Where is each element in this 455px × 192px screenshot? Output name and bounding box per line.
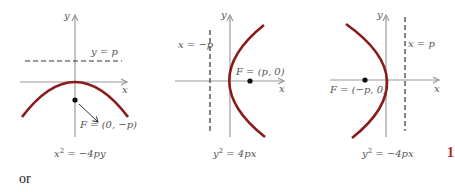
equation-label: x2 = −4py [54,147,106,159]
focus-label: F = (p, 0) [235,66,285,77]
x-axis-label: x [122,84,128,95]
page-marker: 1 [447,145,454,160]
or-text: or [19,171,31,186]
equation-label: y2 = −4px [361,147,414,159]
focus-point [362,77,367,82]
diagram-opens-left: y x x = p F = (−p, 0) y2 = −4px [329,9,440,159]
focus-point [72,97,77,102]
y-axis-label: y [220,9,227,20]
x-axis-label: x [279,83,285,94]
diagram-opens-right: y x x = −p F = (p, 0) y2 = 4px [175,9,285,159]
y-axis-label: y [63,10,70,21]
parabola-figures: y x y = p F = (0, −p) x2 = −4py y x x = … [0,0,455,192]
directrix-label: x = p [408,38,435,49]
directrix-label: x = −p [178,39,214,50]
equation-label: y2 = 4px [212,147,257,159]
y-axis-label: y [376,9,383,20]
focus-label: F = (−p, 0) [329,84,387,95]
x-axis-label: x [434,83,440,94]
directrix-label: y = p [90,46,118,57]
focus-point [247,78,252,83]
focus-label: F = (0, −p) [79,119,137,130]
diagram-opens-down: y x y = p F = (0, −p) x2 = −4py [20,10,137,159]
